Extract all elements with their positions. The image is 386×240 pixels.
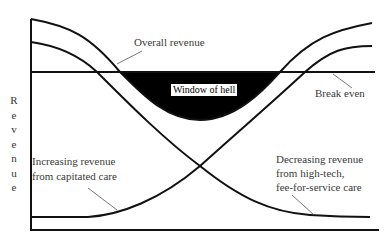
y-letter: e	[8, 108, 20, 123]
y-axis-label: R e v e n u e	[8, 93, 20, 195]
decreasing-label-3: fee-for-service care	[276, 181, 362, 194]
y-letter: n	[8, 151, 20, 166]
overall-leader	[117, 51, 142, 64]
overall-revenue-label: Overall revenue	[134, 36, 205, 49]
decreasing-leader	[292, 195, 314, 215]
y-letter: R	[8, 93, 20, 108]
break-even-leader	[333, 74, 352, 88]
break-even-label: Break even	[315, 87, 365, 100]
y-letter: u	[8, 166, 20, 181]
y-letter: e	[8, 180, 20, 195]
y-letter: e	[8, 137, 20, 152]
decreasing-label-2: from high-tech,	[276, 167, 344, 180]
increasing-label-1: Increasing revenue	[32, 155, 115, 168]
y-letter: v	[8, 122, 20, 137]
window-of-hell-label: Window of hell	[171, 84, 237, 96]
decreasing-label-1: Decreasing revenue	[276, 153, 363, 166]
increasing-label-2: from capitated care	[32, 170, 117, 183]
increasing-leader	[88, 188, 117, 210]
